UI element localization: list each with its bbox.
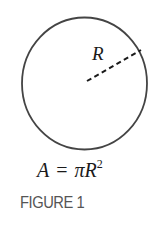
formula-equals: = [56, 159, 67, 181]
formula-area-symbol: A [37, 159, 49, 181]
radius-label: R [92, 44, 104, 63]
area-formula: A=πR2 [37, 158, 103, 180]
circle-outline [22, 18, 147, 150]
formula-exponent: 2 [97, 157, 103, 171]
formula-pi: π [75, 159, 85, 181]
formula-radius-var: R [85, 159, 97, 181]
circle-area-figure: R A=πR2 FIGURE 1 [0, 0, 156, 231]
figure-caption: FIGURE 1 [20, 195, 84, 211]
